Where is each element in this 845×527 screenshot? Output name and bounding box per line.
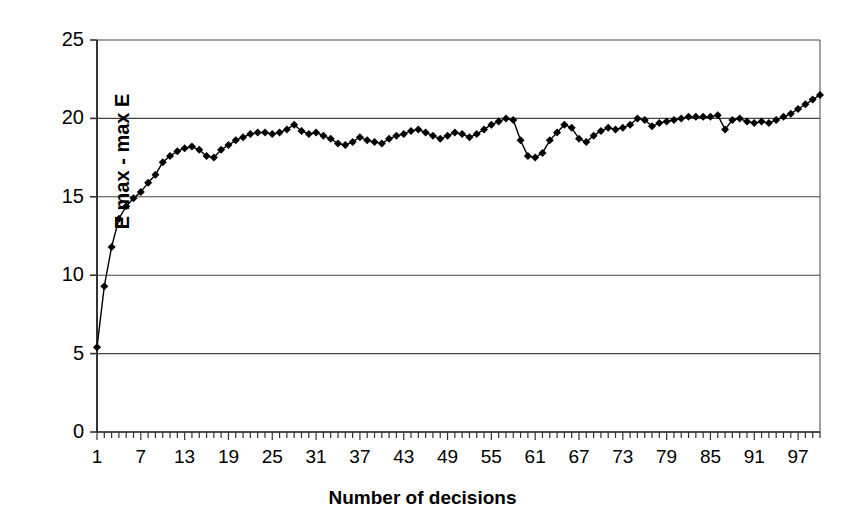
x-axis-minor-ticks xyxy=(97,432,820,440)
data-point-marker xyxy=(487,121,495,129)
data-point-marker xyxy=(188,143,196,151)
data-point-marker xyxy=(604,124,612,132)
data-point-marker xyxy=(268,130,276,138)
x-axis-tick-label: 49 xyxy=(428,447,468,466)
data-point-marker xyxy=(371,138,379,146)
x-axis-tick-label: 7 xyxy=(121,447,161,466)
data-point-marker xyxy=(414,125,422,133)
data-point-marker xyxy=(750,119,758,127)
y-axis-major-ticks xyxy=(90,40,97,432)
data-point-marker xyxy=(276,129,284,137)
data-point-marker xyxy=(575,135,583,143)
x-axis-tick-label: 85 xyxy=(690,447,730,466)
y-axis-tick-label: 5 xyxy=(30,343,84,363)
data-point-marker xyxy=(531,154,539,162)
x-axis-tick-label: 37 xyxy=(340,447,380,466)
data-point-marker xyxy=(239,133,247,141)
data-point-marker xyxy=(181,144,189,152)
data-point-marker xyxy=(392,132,400,140)
data-point-marker xyxy=(407,127,415,135)
data-point-marker xyxy=(378,139,386,147)
data-point-marker xyxy=(465,133,473,141)
x-axis-tick-label: 1 xyxy=(77,447,117,466)
data-point-marker xyxy=(319,132,327,140)
data-point-marker xyxy=(429,132,437,140)
data-point-marker xyxy=(356,133,364,141)
data-point-marker xyxy=(809,96,817,104)
data-point-marker xyxy=(794,105,802,113)
data-point-marker xyxy=(436,135,444,143)
data-point-marker xyxy=(473,130,481,138)
gridlines xyxy=(97,40,820,432)
data-point-marker xyxy=(568,124,576,132)
data-point-marker xyxy=(312,129,320,137)
data-point-marker xyxy=(765,119,773,127)
data-point-marker xyxy=(246,130,254,138)
y-axis-tick-label: 20 xyxy=(30,107,84,127)
data-point-marker xyxy=(706,113,714,121)
y-axis-tick-label: 0 xyxy=(30,421,84,441)
data-point-marker xyxy=(655,119,663,127)
data-point-marker xyxy=(480,125,488,133)
data-point-marker xyxy=(699,113,707,121)
x-axis-tick-label: 73 xyxy=(603,447,643,466)
data-point-marker xyxy=(261,129,269,137)
data-point-marker xyxy=(772,116,780,124)
y-axis-tick-label: 10 xyxy=(30,264,84,284)
data-point-marker xyxy=(341,141,349,149)
y-axis-title: E max - max E xyxy=(111,32,134,292)
data-point-marker xyxy=(597,127,605,135)
x-axis-tick-label: 25 xyxy=(252,447,292,466)
axis-lines xyxy=(97,40,820,432)
x-axis-tick-label: 19 xyxy=(208,447,248,466)
y-axis-tick-label: 15 xyxy=(30,186,84,206)
x-axis-tick-label: 61 xyxy=(515,447,555,466)
x-axis-tick-label: 31 xyxy=(296,447,336,466)
data-point-marker xyxy=(400,130,408,138)
data-point-marker xyxy=(538,149,546,157)
data-point-marker xyxy=(100,282,108,290)
data-point-marker xyxy=(619,124,627,132)
data-point-marker xyxy=(787,110,795,118)
data-point-marker xyxy=(327,135,335,143)
data-point-marker xyxy=(93,343,101,351)
data-point-marker xyxy=(692,113,700,121)
data-point-marker xyxy=(224,141,232,149)
data-point-marker xyxy=(779,113,787,121)
x-axis-tick-label: 55 xyxy=(471,447,511,466)
data-point-marker xyxy=(334,139,342,147)
data-point-marker xyxy=(685,113,693,121)
data-point-marker xyxy=(444,132,452,140)
data-point-marker xyxy=(283,125,291,133)
data-point-marker xyxy=(816,91,824,99)
x-axis-tick-label: 67 xyxy=(559,447,599,466)
y-axis-tick-label: 25 xyxy=(30,29,84,49)
data-point-marker xyxy=(502,114,510,122)
data-point-marker xyxy=(349,138,357,146)
data-point-marker xyxy=(670,116,678,124)
x-axis-title: Number of decisions xyxy=(0,487,845,509)
data-point-marker xyxy=(509,116,517,124)
data-point-marker xyxy=(385,135,393,143)
x-axis-tick-label: 43 xyxy=(384,447,424,466)
data-point-marker xyxy=(232,136,240,144)
data-point-marker xyxy=(801,100,809,108)
data-point-marker xyxy=(612,125,620,133)
x-axis-tick-label: 13 xyxy=(165,447,205,466)
data-point-marker xyxy=(422,129,430,137)
data-point-marker xyxy=(363,136,371,144)
chart-figure: E max - max E Number of decisions 051015… xyxy=(0,0,845,527)
data-point-marker xyxy=(173,147,181,155)
data-point-marker xyxy=(524,152,532,160)
series-markers xyxy=(93,91,824,351)
data-point-marker xyxy=(736,114,744,122)
data-point-marker xyxy=(677,114,685,122)
data-point-marker xyxy=(305,130,313,138)
x-axis-tick-label: 79 xyxy=(647,447,687,466)
data-point-marker xyxy=(451,129,459,137)
x-axis-tick-label: 97 xyxy=(778,447,818,466)
x-axis-tick-label: 91 xyxy=(734,447,774,466)
data-point-marker xyxy=(458,130,466,138)
data-point-marker xyxy=(517,136,525,144)
data-point-marker xyxy=(254,129,262,137)
